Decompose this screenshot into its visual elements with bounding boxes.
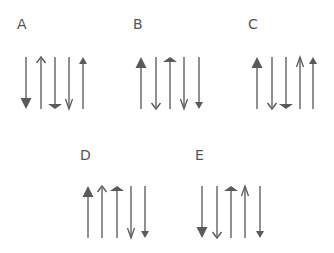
arrow-down-open-icon: [152, 57, 161, 109]
arrow-down-barbed-icon: [128, 186, 135, 238]
arrow-canvas: [0, 0, 334, 253]
option-group-b: [136, 57, 204, 109]
option-group-e: [197, 186, 265, 238]
arrow-up-big-filled-icon: [83, 186, 94, 238]
arrow-up-barbed-icon: [242, 186, 249, 238]
arrow-down-barbed-icon: [66, 57, 73, 109]
arrow-down-big-filled-icon: [197, 186, 208, 238]
arrow-down-flat-filled-icon: [48, 57, 62, 109]
arrow-down-barbed-icon: [181, 57, 188, 109]
option-group-d: [83, 186, 150, 238]
arrow-down-flat-filled-icon: [279, 57, 293, 109]
option-group-c: [252, 57, 318, 109]
arrow-down-big-filled-icon: [21, 57, 32, 109]
arrow-down-small-filled-icon: [195, 57, 203, 109]
arrow-up-small-filled-icon: [309, 57, 317, 109]
arrow-up-flat-filled-icon: [110, 186, 124, 238]
arrow-up-big-filled-icon: [136, 57, 147, 109]
arrow-down-open-icon: [213, 186, 222, 238]
option-group-a: [21, 57, 88, 109]
arrow-up-small-filled-icon: [79, 57, 87, 109]
arrow-down-small-filled-icon: [141, 186, 149, 238]
arrow-down-open-icon: [268, 57, 277, 109]
arrow-up-open-icon: [98, 186, 107, 238]
arrow-up-big-filled-icon: [252, 57, 263, 109]
arrow-up-flat-filled-icon: [163, 57, 177, 109]
arrow-up-open-icon: [37, 57, 46, 109]
arrow-up-barbed-icon: [297, 57, 304, 109]
arrow-down-small-filled-icon: [256, 186, 264, 238]
arrow-up-flat-filled-icon: [224, 186, 238, 238]
